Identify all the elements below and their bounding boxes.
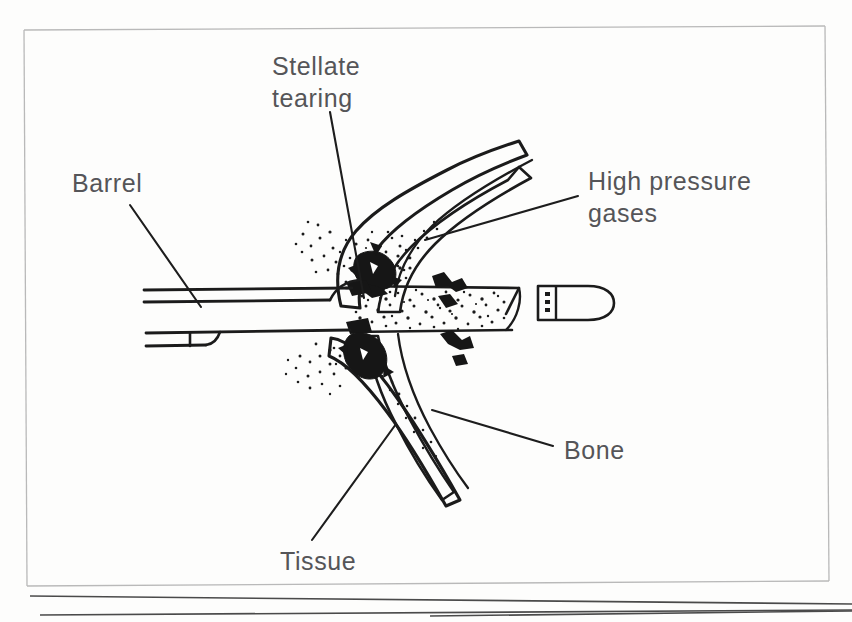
- label-bone: Bone: [564, 436, 625, 464]
- gunshot-wound-diagram: Barrel Stellate tearing High pressure ga…: [0, 0, 852, 622]
- bullet-cannelure: [545, 292, 550, 312]
- figure-canvas: Barrel Stellate tearing High pressure ga…: [0, 0, 852, 622]
- label-stellate-tearing-line1: Stellate: [272, 52, 360, 80]
- label-high-pressure-gases-line2: gases: [588, 199, 658, 227]
- label-tissue: Tissue: [280, 547, 356, 575]
- label-high-pressure-gases-line1: High pressure: [588, 167, 751, 195]
- label-barrel: Barrel: [72, 169, 142, 197]
- label-stellate-tearing-line2: tearing: [272, 84, 353, 112]
